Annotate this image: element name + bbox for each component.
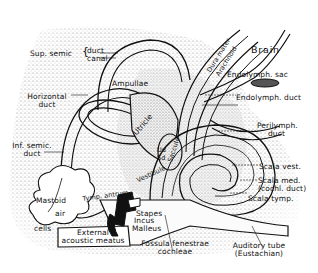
label-ud: Ud xyxy=(157,147,166,154)
label-malleus: Malleus xyxy=(132,225,161,233)
label-sd: Sd xyxy=(157,155,165,162)
label-fossula-2: cochleae xyxy=(140,248,210,256)
label-external-2: acoustic meatus xyxy=(60,237,126,245)
label-scala-med-2: (cochl. duct) xyxy=(258,185,306,193)
label-air: air xyxy=(55,210,65,218)
label-endolymph-duct: Endolymph. duct xyxy=(236,94,301,102)
inner-ear-diagram: Sup. semic { duct canal Ampullae Horizon… xyxy=(0,0,318,273)
label-perilymph-duct-2: duct xyxy=(268,130,285,138)
label-inf-semic-2: duct xyxy=(12,150,52,158)
label-auditory-2: (Eustachian) xyxy=(226,250,292,258)
label-sup-canal: canal xyxy=(87,55,108,63)
label-ampullae: Ampullae xyxy=(112,80,148,88)
label-brain: Brain xyxy=(251,45,280,55)
label-sup-semic: Sup. semic xyxy=(30,50,72,58)
label-endolymph-sac: Endolymph. sac xyxy=(227,71,288,79)
label-scala-tymp: Scala tymp. xyxy=(248,195,293,203)
label-cells: cells xyxy=(34,225,51,233)
label-mastoid: Mastoid xyxy=(36,197,66,205)
label-scala-vest: Scala vest. xyxy=(259,163,301,171)
label-horizontal-duct-2: duct xyxy=(24,101,70,109)
